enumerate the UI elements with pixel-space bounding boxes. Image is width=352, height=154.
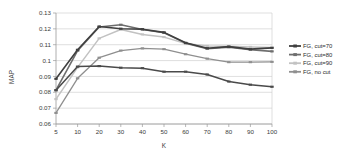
legend-swatch-marker xyxy=(293,53,297,56)
series-marker xyxy=(141,33,144,35)
legend-item-label: FG, cut=90 xyxy=(303,60,333,66)
series-marker xyxy=(119,50,122,52)
y-tick-label: 0.06 xyxy=(39,120,52,127)
series-marker xyxy=(141,28,144,30)
series-marker xyxy=(270,47,273,49)
series-marker xyxy=(249,48,252,50)
series-marker xyxy=(76,66,79,68)
series-marker xyxy=(162,48,165,50)
x-tick-label: 10 xyxy=(74,128,81,135)
series-marker xyxy=(141,67,144,69)
x-tick-label: 90 xyxy=(247,128,254,135)
x-tick-label: 5 xyxy=(54,128,58,135)
series-marker xyxy=(206,47,209,49)
series-marker xyxy=(206,45,209,47)
series-marker xyxy=(98,65,101,67)
legend-item-label: FG, no cut xyxy=(303,69,331,75)
series-marker xyxy=(227,80,230,82)
y-tick-label: 0.1 xyxy=(42,57,51,64)
chart-background xyxy=(0,0,352,154)
x-axis-title: K xyxy=(162,142,167,149)
series-marker xyxy=(227,46,230,48)
series-marker xyxy=(54,78,57,80)
x-tick-label: 50 xyxy=(161,128,168,135)
series-marker xyxy=(249,61,252,63)
series-marker xyxy=(184,71,187,73)
series-marker xyxy=(162,71,165,73)
series-marker xyxy=(119,28,122,30)
legend-swatch-marker xyxy=(293,62,297,65)
series-marker xyxy=(270,50,273,52)
series-marker xyxy=(249,46,252,48)
series-marker xyxy=(76,77,79,79)
series-marker xyxy=(98,25,101,27)
series-marker xyxy=(162,31,165,33)
series-marker xyxy=(270,86,273,88)
series-marker xyxy=(206,58,209,60)
chart-svg: 0.060.070.080.090.10.110.120.13 51020304… xyxy=(0,0,352,154)
series-marker xyxy=(119,67,122,69)
legend-swatch-marker xyxy=(293,70,297,73)
y-axis-title: MAP xyxy=(8,70,15,84)
y-tick-label: 0.13 xyxy=(39,9,52,16)
series-marker xyxy=(184,42,187,44)
series-marker xyxy=(119,24,122,26)
y-tick-label: 0.07 xyxy=(39,104,52,111)
series-marker xyxy=(98,57,101,59)
series-marker xyxy=(98,37,101,39)
y-tick-label: 0.12 xyxy=(39,25,52,32)
series-marker xyxy=(54,89,57,91)
series-marker xyxy=(54,98,57,100)
y-tick-label: 0.08 xyxy=(39,88,52,95)
series-marker xyxy=(76,49,79,51)
series-marker xyxy=(270,61,273,63)
x-tick-label: 40 xyxy=(139,128,146,135)
x-tick-label: 30 xyxy=(117,128,124,135)
series-marker xyxy=(206,73,209,75)
series-marker xyxy=(227,61,230,63)
x-tick-label: 60 xyxy=(182,128,189,135)
series-marker xyxy=(249,84,252,86)
x-tick-label: 80 xyxy=(225,128,232,135)
series-marker xyxy=(184,53,187,55)
y-tick-label: 0.11 xyxy=(39,41,51,48)
series-marker xyxy=(54,112,57,114)
y-tick-label: 0.09 xyxy=(39,73,52,80)
x-tick-label: 70 xyxy=(204,128,211,135)
legend-item-label: FG, cut=80 xyxy=(303,52,333,58)
chart-figure: 0.060.070.080.090.10.110.120.13 51020304… xyxy=(0,0,352,154)
x-tick-label: 20 xyxy=(96,128,103,135)
series-marker xyxy=(162,36,165,38)
series-marker xyxy=(141,47,144,49)
legend-item-label: FG, cut=70 xyxy=(303,43,333,49)
x-tick-label: 100 xyxy=(267,128,278,135)
legend-swatch-marker xyxy=(293,45,297,48)
